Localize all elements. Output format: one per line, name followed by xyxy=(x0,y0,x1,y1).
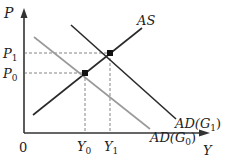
p1-label: P1 xyxy=(2,46,17,63)
x-axis-label: Y xyxy=(203,143,213,158)
y0-label: Y0 xyxy=(77,139,92,156)
y1-label: Y1 xyxy=(104,139,118,156)
origin-label: 0 xyxy=(19,140,27,155)
as-label: AS xyxy=(136,13,155,28)
y-axis-arrow-icon xyxy=(21,8,28,18)
p0-label: P0 xyxy=(2,66,18,83)
y-axis-label: P xyxy=(3,5,14,21)
equilibrium-point-1 xyxy=(107,50,113,56)
equilibrium-point-0 xyxy=(82,70,88,76)
ad-g0-curve xyxy=(34,37,150,129)
as-ad-diagram: P Y 0 P1 P0 Y0 Y1 AS AD(G1) AD(G0) xyxy=(0,0,226,159)
